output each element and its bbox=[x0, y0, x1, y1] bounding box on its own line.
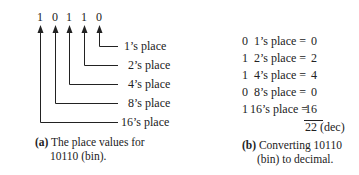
arrowhead-icon bbox=[53, 25, 59, 33]
place-label-8: 8’s place bbox=[128, 97, 170, 109]
caption-a: (a) The place values for bbox=[35, 135, 145, 149]
caption-a-line2: 10110 (bin). bbox=[50, 149, 106, 163]
row-bit: 1 bbox=[242, 52, 248, 64]
row-place: 1’s place = bbox=[254, 35, 306, 47]
total-value: 22 (dec) bbox=[305, 121, 345, 133]
row-bit: 1 bbox=[242, 69, 248, 81]
row-place: 16’s place = bbox=[250, 103, 308, 115]
caption-b-line1: Converting 10110 bbox=[259, 139, 342, 151]
caption-b: (b) Converting 10110 bbox=[242, 138, 342, 152]
row-place: 8’s place = bbox=[254, 86, 306, 98]
row-value: 0 bbox=[311, 86, 317, 98]
arrowhead-icon bbox=[82, 25, 88, 33]
row-value: 4 bbox=[311, 69, 317, 81]
caption-b-tag: (b) bbox=[242, 139, 256, 151]
row-bit: 0 bbox=[242, 86, 248, 98]
place-label-4: 4’s place bbox=[128, 78, 170, 90]
row-value: 0 bbox=[311, 35, 317, 47]
row-bit: 1 bbox=[242, 103, 248, 115]
row-place: 2’s place = bbox=[254, 52, 306, 64]
place-label-1: 1’s place bbox=[124, 40, 166, 52]
place-label-16: 16’s place bbox=[121, 116, 169, 128]
caption-a-line1: The place values for bbox=[51, 136, 145, 148]
row-place: 4’s place = bbox=[254, 69, 306, 81]
row-bit: 0 bbox=[242, 35, 248, 47]
row-value: 2 bbox=[311, 52, 317, 64]
place-label-2: 2’s place bbox=[128, 59, 170, 71]
arrowhead-icon bbox=[67, 25, 73, 33]
row-value: 16 bbox=[305, 103, 317, 115]
arrowhead-icon bbox=[38, 25, 44, 33]
caption-b-line2: (bin) to decimal. bbox=[257, 152, 333, 166]
caption-a-tag: (a) bbox=[35, 136, 48, 148]
arrowhead-icon bbox=[97, 25, 103, 33]
